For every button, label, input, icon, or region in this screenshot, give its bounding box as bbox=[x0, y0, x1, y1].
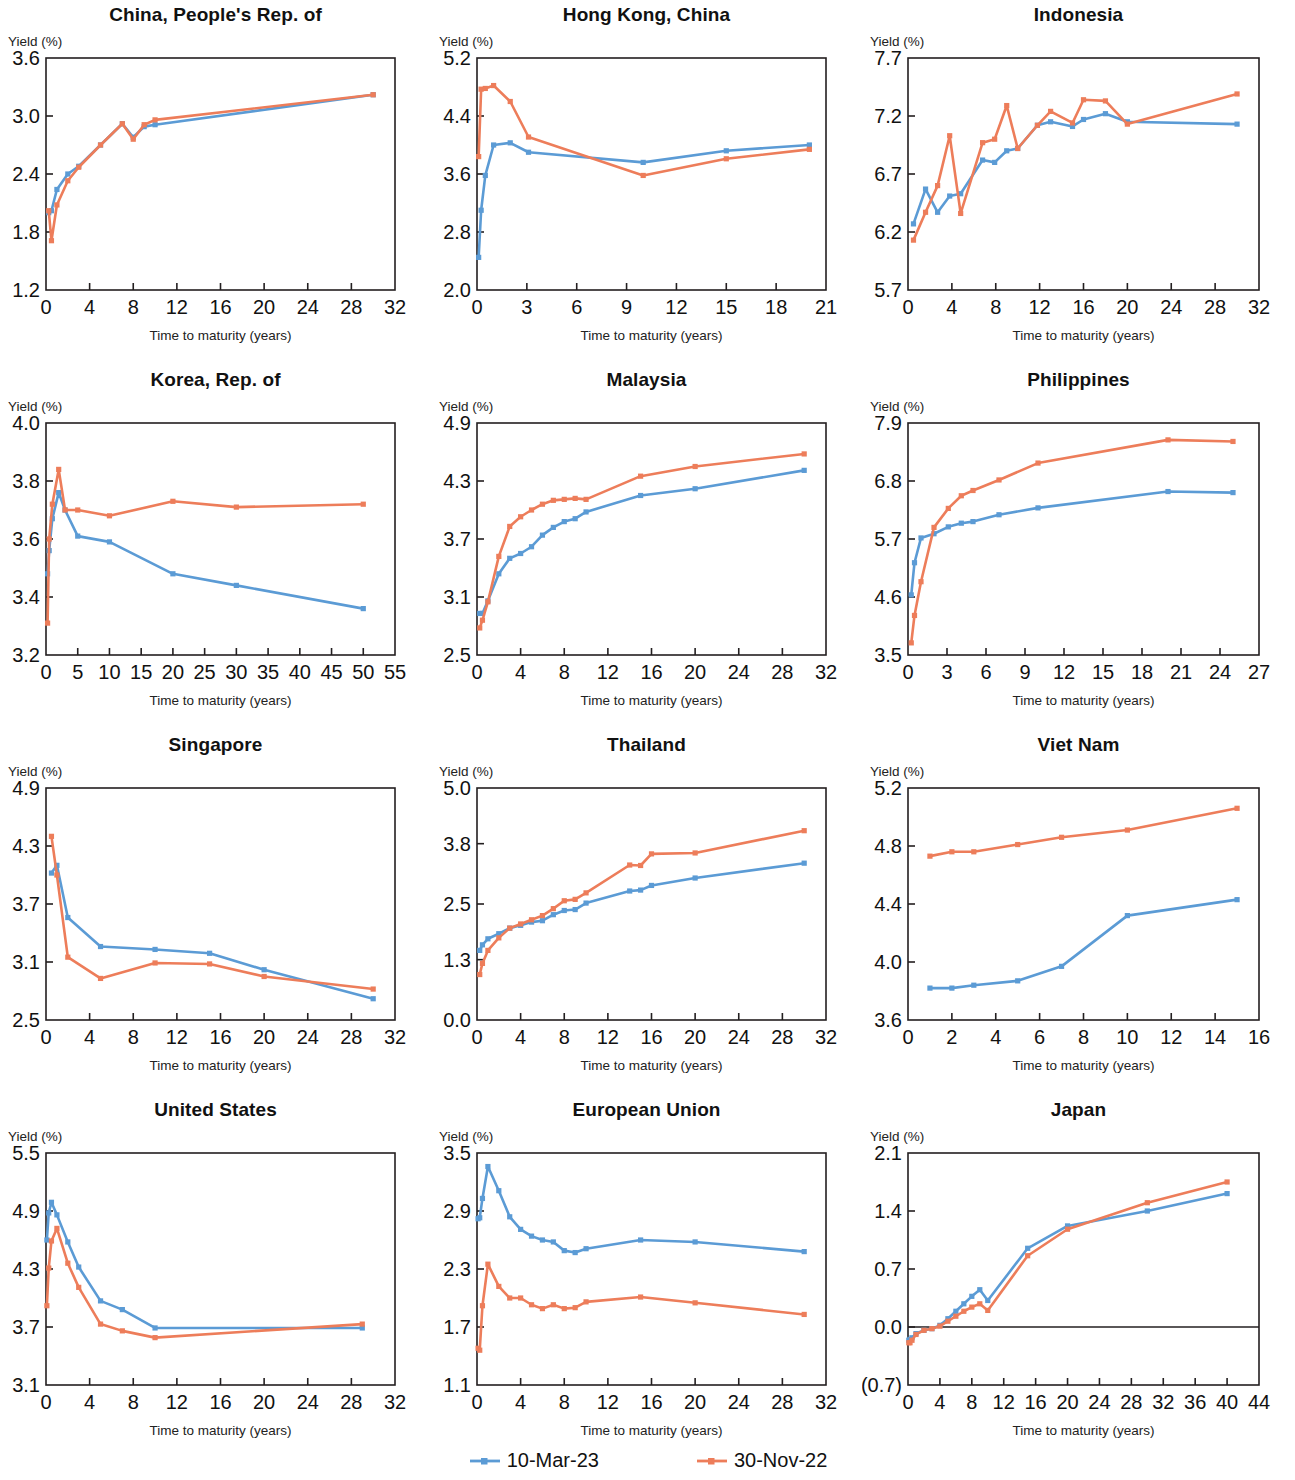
series-marker bbox=[909, 592, 914, 597]
series-marker bbox=[996, 512, 1001, 517]
series-marker bbox=[65, 915, 70, 920]
series-marker bbox=[638, 474, 643, 479]
series-marker bbox=[1230, 439, 1235, 444]
series-marker bbox=[947, 193, 952, 198]
svg-text:1.4: 1.4 bbox=[874, 1200, 902, 1222]
series-marker bbox=[1145, 1200, 1150, 1205]
series-marker bbox=[54, 187, 59, 192]
series-marker bbox=[477, 972, 482, 977]
svg-text:24: 24 bbox=[297, 1391, 319, 1413]
svg-text:3: 3 bbox=[941, 661, 952, 683]
series-marker bbox=[152, 122, 157, 127]
svg-text:20: 20 bbox=[1116, 296, 1138, 318]
svg-text:10: 10 bbox=[1116, 1026, 1138, 1048]
svg-text:5.2: 5.2 bbox=[443, 47, 471, 69]
svg-text:20: 20 bbox=[253, 296, 275, 318]
y-axis-label: Yield (%) bbox=[870, 1129, 924, 1144]
svg-text:1.2: 1.2 bbox=[12, 279, 40, 301]
series-marker bbox=[1048, 119, 1053, 124]
svg-text:12: 12 bbox=[166, 1026, 188, 1048]
svg-text:5.5: 5.5 bbox=[12, 1142, 40, 1164]
series-marker bbox=[54, 202, 59, 207]
svg-text:28: 28 bbox=[771, 1026, 793, 1048]
chart-panel: Indonesia5.76.26.77.27.7048121620242832Y… bbox=[862, 0, 1295, 365]
svg-text:28: 28 bbox=[1120, 1391, 1142, 1413]
series-marker bbox=[65, 1239, 70, 1244]
series-marker bbox=[170, 571, 175, 576]
series-marker bbox=[1103, 111, 1108, 116]
svg-text:32: 32 bbox=[815, 1026, 837, 1048]
series-marker bbox=[518, 551, 523, 556]
series-marker bbox=[483, 173, 488, 178]
series-marker bbox=[152, 1335, 157, 1340]
series-line bbox=[478, 1264, 804, 1350]
svg-text:3.2: 3.2 bbox=[12, 644, 40, 666]
series-marker bbox=[693, 464, 698, 469]
series-marker bbox=[262, 967, 267, 972]
series-marker bbox=[946, 524, 951, 529]
svg-text:3.6: 3.6 bbox=[12, 47, 40, 69]
series-marker bbox=[573, 897, 578, 902]
series-marker bbox=[1230, 490, 1235, 495]
series-marker bbox=[361, 502, 366, 507]
svg-text:16: 16 bbox=[209, 296, 231, 318]
series-marker bbox=[529, 1302, 534, 1307]
series-marker bbox=[980, 140, 985, 145]
svg-text:12: 12 bbox=[1029, 296, 1051, 318]
series-marker bbox=[491, 83, 496, 88]
series-line bbox=[911, 492, 1233, 595]
svg-text:2.9: 2.9 bbox=[443, 1200, 471, 1222]
series-marker bbox=[496, 571, 501, 576]
series-marker bbox=[65, 1261, 70, 1266]
chart-panel: Singapore2.53.13.74.34.9048121620242832Y… bbox=[0, 730, 431, 1095]
series-marker bbox=[977, 1301, 982, 1306]
series-marker bbox=[120, 121, 125, 126]
series-marker bbox=[65, 178, 70, 183]
svg-text:32: 32 bbox=[1248, 296, 1270, 318]
series-marker bbox=[1125, 913, 1130, 918]
y-axis-label: Yield (%) bbox=[8, 764, 62, 779]
svg-text:3.0: 3.0 bbox=[12, 105, 40, 127]
svg-text:20: 20 bbox=[684, 1026, 706, 1048]
series-marker bbox=[540, 533, 545, 538]
series-marker bbox=[583, 497, 588, 502]
plot-area: 3.23.43.63.84.00510152025303540455055 bbox=[0, 365, 431, 730]
svg-text:0: 0 bbox=[40, 1026, 51, 1048]
series-marker bbox=[971, 983, 976, 988]
series-marker bbox=[76, 1264, 81, 1269]
series-marker bbox=[540, 918, 545, 923]
series-marker bbox=[485, 948, 490, 953]
svg-text:24: 24 bbox=[728, 1391, 750, 1413]
x-axis-label: Time to maturity (years) bbox=[46, 1423, 395, 1438]
svg-text:9: 9 bbox=[621, 296, 632, 318]
series-marker bbox=[480, 1196, 485, 1201]
svg-text:3.7: 3.7 bbox=[12, 1316, 40, 1338]
series-marker bbox=[56, 490, 61, 495]
series-marker bbox=[911, 238, 916, 243]
series-marker bbox=[1103, 98, 1108, 103]
series-marker bbox=[1048, 109, 1053, 114]
svg-text:35: 35 bbox=[257, 661, 279, 683]
y-axis-label: Yield (%) bbox=[439, 1129, 493, 1144]
series-marker bbox=[65, 955, 70, 960]
series-marker bbox=[638, 1294, 643, 1299]
series-line bbox=[913, 94, 1237, 240]
series-marker bbox=[638, 887, 643, 892]
svg-text:40: 40 bbox=[1216, 1391, 1238, 1413]
svg-text:28: 28 bbox=[340, 1026, 362, 1048]
svg-text:3.1: 3.1 bbox=[12, 951, 40, 973]
x-axis-label: Time to maturity (years) bbox=[477, 1423, 826, 1438]
svg-text:6.2: 6.2 bbox=[874, 221, 902, 243]
series-marker bbox=[54, 872, 59, 877]
series-marker bbox=[937, 1324, 942, 1329]
legend-item: 10-Mar-23 bbox=[468, 1449, 599, 1472]
svg-text:4.4: 4.4 bbox=[874, 893, 902, 915]
series-marker bbox=[76, 1285, 81, 1290]
series-marker bbox=[992, 137, 997, 142]
svg-text:25: 25 bbox=[194, 661, 216, 683]
series-marker bbox=[507, 926, 512, 931]
svg-text:8: 8 bbox=[1078, 1026, 1089, 1048]
svg-text:45: 45 bbox=[320, 661, 342, 683]
series-marker bbox=[1035, 460, 1040, 465]
series-marker bbox=[98, 944, 103, 949]
